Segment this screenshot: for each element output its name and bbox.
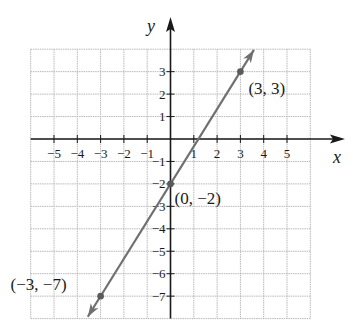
y-tick-label: −4 [152, 221, 166, 236]
line-arrow-up-icon [243, 50, 254, 63]
x-tick-label: −4 [70, 146, 84, 161]
x-tick-label: 5 [284, 146, 291, 161]
data-point-label: (0, −2) [175, 189, 221, 208]
y-tick-label: −5 [152, 244, 166, 259]
line-graph: −5−4−3−2−112345321−1−2−3−4−5−6−7 (3, 3)(… [0, 0, 353, 335]
x-tick-label: 4 [260, 146, 267, 161]
x-tick-label: −5 [47, 146, 61, 161]
data-point-marker [167, 181, 174, 188]
x-tick-label: 2 [214, 146, 221, 161]
y-tick-label: 2 [159, 87, 166, 102]
y-tick-label: 1 [159, 109, 166, 124]
x-tick-label: −2 [117, 146, 131, 161]
y-axis-label: y [145, 16, 155, 36]
data-point-label: (3, 3) [248, 79, 285, 98]
data-point-label: (−3, −7) [11, 275, 67, 294]
data-point-marker [237, 68, 244, 75]
x-tick-label: −3 [94, 146, 108, 161]
y-tick-label: 3 [159, 64, 166, 79]
y-tick-label: −2 [152, 176, 166, 191]
y-tick-label: −7 [152, 289, 166, 304]
line-arrow-down-icon [88, 303, 99, 316]
x-axis-label: x [332, 147, 341, 167]
data-point-marker [97, 293, 104, 300]
y-tick-label: −6 [152, 266, 166, 281]
x-tick-label: 3 [237, 146, 244, 161]
y-tick-label: −1 [152, 154, 166, 169]
